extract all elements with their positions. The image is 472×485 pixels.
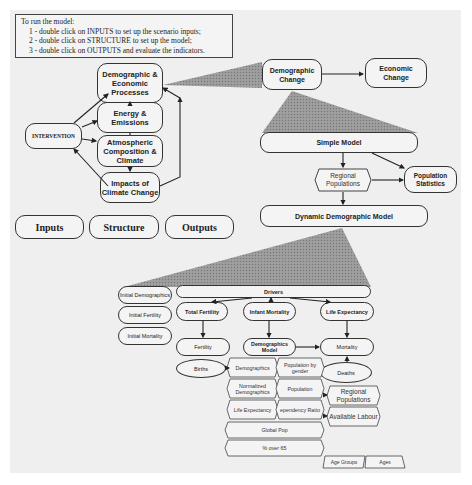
node-label: Initial Demographics — [120, 292, 170, 299]
population-statistics-node[interactable]: Population Statistics — [404, 166, 457, 193]
instruction-step-1: 1 - double click on INPUTS to set up the… — [21, 27, 227, 37]
node-label: Demographic Change — [263, 66, 321, 84]
demographics-output[interactable]: Demographics — [226, 357, 279, 378]
node-label: Total Fertility — [185, 309, 219, 315]
node-label: Demographics Model — [244, 341, 295, 353]
node-label: Regional Populations — [314, 172, 372, 188]
regional-populations-output[interactable]: Regional Populations — [326, 385, 381, 406]
population-output[interactable]: Population — [275, 378, 325, 399]
node-label: % over 65 — [263, 445, 287, 451]
demographic-economic-processes-node[interactable]: Demographic & Economic Processes — [97, 63, 163, 103]
node-label: Simple Model — [316, 139, 361, 146]
figure-caption-cutoff — [60, 478, 440, 484]
structure-button[interactable]: Structure — [89, 215, 159, 239]
node-label: Fertility — [194, 344, 212, 350]
mortality-node[interactable]: Mortality — [320, 338, 374, 356]
inputs-button[interactable]: Inputs — [15, 215, 84, 239]
node-label: Mortality — [337, 344, 358, 350]
button-label: Inputs — [36, 222, 64, 233]
node-label: Demographic & Economic Processes — [98, 70, 162, 97]
deaths-node[interactable]: Deaths — [320, 362, 372, 383]
simple-model-node[interactable]: Simple Model — [260, 132, 418, 153]
global-pop-output[interactable]: Global Pop — [224, 421, 325, 439]
node-label: Deaths — [337, 370, 354, 376]
infant-mortality-node[interactable]: Infant Mortality — [243, 302, 296, 321]
node-label: Demographics — [235, 365, 269, 371]
node-label: Initial Mortality — [127, 333, 162, 339]
initial-mortality-node[interactable]: Initial Mortality — [118, 327, 172, 345]
node-label: Life Expectancy — [234, 407, 271, 413]
fertility-node[interactable]: Fertility — [176, 338, 230, 356]
dynamic-demographic-model-node[interactable]: Dynamic Demographic Model — [260, 205, 428, 227]
node-label: Population Statistics — [405, 172, 456, 188]
node-label: Economic Change — [366, 64, 426, 82]
node-label: INTERVENTION — [32, 133, 75, 139]
node-label: Ages — [379, 459, 390, 465]
population-by-gender-output[interactable]: Population by gender — [275, 357, 325, 378]
births-node[interactable]: Births — [176, 359, 226, 378]
node-label: Impacts of Climate Change — [101, 179, 159, 197]
life-expectancy-output[interactable]: Life Expectancy — [226, 399, 279, 420]
demographics-model-node[interactable]: Demographics Model — [243, 338, 296, 356]
normalized-demographics-output[interactable]: Normalized Demographics — [226, 378, 279, 399]
node-label: Population — [287, 386, 312, 392]
node-label: Energy & Emissions — [98, 109, 162, 127]
available-labour-output[interactable]: Available Labour — [326, 406, 381, 427]
node-label: Drivers — [264, 289, 283, 295]
node-label: Age Groups — [331, 459, 358, 465]
node-label: ependency Ratio — [280, 407, 320, 413]
node-label: Life Expectancy — [326, 309, 368, 315]
node-label: Infant Mortality — [250, 309, 289, 315]
life-expectancy-node[interactable]: Life Expectancy — [320, 302, 374, 321]
node-label: Normalized Demographics — [226, 383, 279, 395]
instruction-step-3: 3 - double click on OUTPUTS and evaluate… — [21, 46, 227, 56]
impacts-climate-change-node[interactable]: Impacts of Climate Change — [100, 172, 160, 203]
energy-emissions-node[interactable]: Energy & Emissions — [97, 102, 163, 133]
total-fertility-node[interactable]: Total Fertility — [176, 302, 228, 321]
button-label: Structure — [104, 222, 145, 233]
outputs-button[interactable]: Outputs — [165, 215, 234, 239]
initial-demographics-node[interactable]: Initial Demographics — [118, 286, 172, 304]
dependency-ratio-output[interactable]: ependency Ratio — [275, 399, 325, 420]
initial-fertility-node[interactable]: Initial Fertility — [118, 306, 172, 324]
atmospheric-climate-node[interactable]: Atmospheric Composition & Climate — [97, 135, 163, 167]
node-label: Regional Populations — [326, 388, 381, 403]
node-label: Population by gender — [275, 362, 325, 374]
instructions-title: To run the model: — [21, 17, 227, 27]
node-label: Available Labour — [329, 413, 377, 421]
button-label: Outputs — [182, 222, 217, 233]
regional-populations-node[interactable]: Regional Populations — [314, 168, 372, 192]
instruction-step-2: 2 - double click on STRUCTURE to set up … — [21, 36, 227, 46]
demographic-change-node[interactable]: Demographic Change — [262, 59, 322, 90]
node-label: Dynamic Demographic Model — [295, 213, 393, 220]
node-label: Global Pop — [261, 427, 287, 433]
node-label: Atmospheric Composition & Climate — [98, 138, 162, 165]
age-groups-input[interactable]: Age Groups — [322, 455, 366, 469]
ages-input[interactable]: Ages — [364, 455, 406, 469]
pct-over-65-output[interactable]: % over 65 — [224, 439, 325, 457]
economic-change-node[interactable]: Economic Change — [365, 58, 427, 88]
node-label: Births — [194, 366, 208, 372]
node-label: Initial Fertility — [129, 312, 161, 318]
instructions-panel: To run the model: 1 - double click on IN… — [15, 14, 233, 58]
drivers-node[interactable]: Drivers — [176, 285, 371, 298]
intervention-node[interactable]: INTERVENTION — [25, 123, 82, 149]
